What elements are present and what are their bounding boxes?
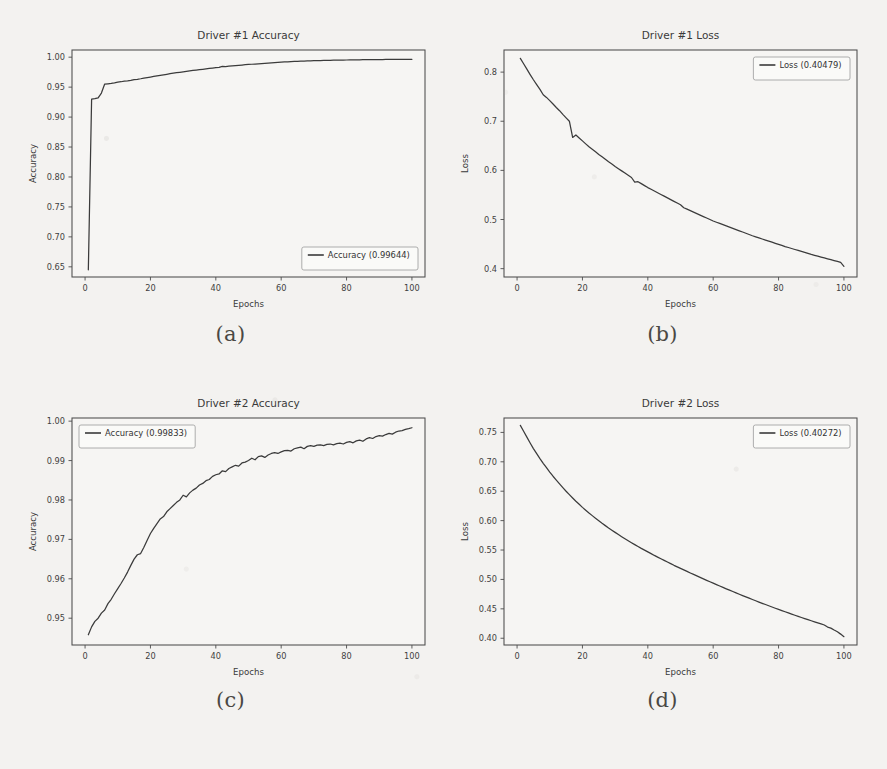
x-tick-label: 0 (514, 651, 519, 661)
chart-title: Driver #2 Loss (642, 397, 720, 409)
y-tick-label: 0.65 (479, 486, 497, 496)
x-tick-label: 60 (708, 651, 718, 661)
subfigure-c: Driver #2 Accuracy020406080100Epochs0.95… (18, 390, 443, 720)
x-tick-label: 60 (276, 283, 286, 293)
caption-c: (c) (18, 688, 443, 712)
x-tick-label: 80 (773, 651, 783, 661)
x-tick-label: 20 (145, 651, 155, 661)
legend-label: Accuracy (0.99833) (105, 428, 187, 438)
y-axis-label: Accuracy (28, 512, 38, 551)
y-tick-label: 0.95 (47, 613, 65, 623)
x-axis-label: Epochs (233, 667, 264, 677)
chart-title: Driver #2 Accuracy (197, 397, 299, 409)
x-tick-label: 0 (514, 283, 519, 293)
plot-area (504, 418, 857, 645)
y-tick-label: 0.97 (47, 534, 65, 544)
chart-driver1-loss: Driver #1 Loss020406080100Epochs0.40.50.… (450, 22, 875, 322)
plot-area (504, 50, 857, 277)
y-axis-label: Accuracy (28, 144, 38, 183)
y-tick-label: 0.70 (47, 232, 65, 242)
chart-driver2-accuracy: Driver #2 Accuracy020406080100Epochs0.95… (18, 390, 443, 690)
y-tick-label: 0.95 (47, 82, 65, 92)
x-tick-label: 0 (82, 651, 87, 661)
x-axis-label: Epochs (665, 299, 696, 309)
y-tick-label: 0.98 (47, 495, 65, 505)
y-tick-label: 0.40 (479, 633, 497, 643)
x-tick-label: 80 (341, 283, 351, 293)
y-tick-label: 0.55 (479, 545, 497, 555)
y-tick-label: 0.8 (484, 67, 497, 77)
x-tick-label: 100 (404, 283, 420, 293)
legend-label: Loss (0.40272) (779, 428, 841, 438)
caption-a: (a) (18, 322, 443, 346)
legend-label: Accuracy (0.99644) (328, 250, 410, 260)
x-tick-label: 60 (708, 283, 718, 293)
x-tick-label: 40 (211, 651, 221, 661)
subfigure-d: Driver #2 Loss020406080100Epochs0.400.45… (450, 390, 875, 720)
x-tick-label: 60 (276, 651, 286, 661)
plot-area (72, 418, 425, 645)
chart-title: Driver #1 Accuracy (197, 29, 299, 41)
subfigure-b: Driver #1 Loss020406080100Epochs0.40.50.… (450, 22, 875, 352)
x-axis-label: Epochs (233, 299, 264, 309)
subfigure-a: Driver #1 Accuracy020406080100Epochs0.65… (18, 22, 443, 352)
chart-legend: Loss (0.40272) (753, 425, 850, 448)
y-axis-label: Loss (460, 154, 470, 173)
y-tick-label: 1.00 (47, 416, 65, 426)
y-tick-label: 0.75 (479, 427, 497, 437)
y-tick-label: 0.90 (47, 112, 65, 122)
x-tick-label: 40 (643, 283, 653, 293)
y-tick-label: 0.80 (47, 172, 65, 182)
y-tick-label: 0.50 (479, 574, 497, 584)
x-tick-label: 100 (404, 651, 420, 661)
caption-b: (b) (450, 322, 875, 346)
figure-grid: Driver #1 Accuracy020406080100Epochs0.65… (0, 0, 887, 769)
chart-driver2-loss: Driver #2 Loss020406080100Epochs0.400.45… (450, 390, 875, 690)
x-tick-label: 20 (145, 283, 155, 293)
x-tick-label: 40 (643, 651, 653, 661)
x-tick-label: 100 (836, 283, 852, 293)
y-tick-label: 1.00 (47, 52, 65, 62)
y-tick-label: 0.4 (484, 264, 497, 274)
x-axis-label: Epochs (665, 667, 696, 677)
x-tick-label: 20 (577, 283, 587, 293)
x-tick-label: 80 (341, 651, 351, 661)
y-tick-label: 0.99 (47, 456, 65, 466)
chart-legend: Loss (0.40479) (753, 57, 850, 80)
x-tick-label: 80 (773, 283, 783, 293)
x-tick-label: 40 (211, 283, 221, 293)
chart-legend: Accuracy (0.99833) (79, 425, 195, 448)
y-tick-label: 0.7 (484, 116, 497, 126)
x-tick-label: 0 (82, 283, 87, 293)
y-tick-label: 0.5 (484, 215, 497, 225)
plot-area (72, 50, 425, 277)
x-tick-label: 100 (836, 651, 852, 661)
legend-label: Loss (0.40479) (779, 60, 841, 70)
y-tick-label: 0.65 (47, 262, 65, 272)
y-tick-label: 0.85 (47, 142, 65, 152)
chart-driver1-accuracy: Driver #1 Accuracy020406080100Epochs0.65… (18, 22, 443, 322)
y-tick-label: 0.60 (479, 516, 497, 526)
chart-legend: Accuracy (0.99644) (302, 247, 418, 270)
y-tick-label: 0.75 (47, 202, 65, 212)
y-tick-label: 0.96 (47, 574, 65, 584)
y-axis-label: Loss (460, 522, 470, 541)
chart-title: Driver #1 Loss (642, 29, 720, 41)
y-tick-label: 0.6 (484, 165, 497, 175)
x-tick-label: 20 (577, 651, 587, 661)
y-tick-label: 0.70 (479, 457, 497, 467)
caption-d: (d) (450, 688, 875, 712)
y-tick-label: 0.45 (479, 604, 497, 614)
